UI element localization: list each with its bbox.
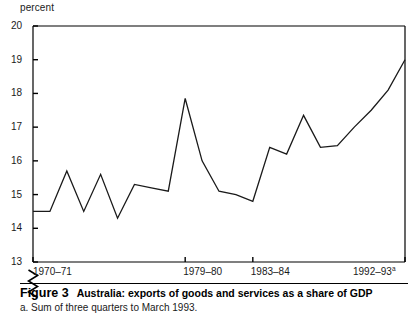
figure-caption: Figure 3Australia: exports of goods and … (20, 286, 416, 300)
figure-footnote: a. Sum of three quarters to March 1993. (20, 302, 197, 314)
y-tick-label: 14 (0, 223, 22, 233)
x-tick-label: 1970–71 (33, 266, 72, 277)
chart-axes (33, 26, 405, 262)
y-tick-label: 13 (0, 257, 22, 267)
figure-container: percent 1314151617181920 1970–711979–801… (0, 0, 420, 316)
y-tick-label: 16 (0, 156, 22, 166)
x-tick-label: 1979–80 (183, 266, 222, 277)
x-tick-label: 1992–93a (353, 266, 396, 277)
chart-tick-marks (33, 26, 405, 262)
figure-number: Figure 3 (20, 286, 69, 300)
figure-title: Australia: exports of goods and services… (77, 287, 373, 299)
y-tick-label: 20 (0, 21, 22, 31)
x-tick-label: 1983–84 (251, 266, 290, 277)
chart-plot-area: 1314151617181920 1970–711979–801983–8419… (0, 0, 420, 280)
data-series-line (33, 60, 405, 218)
line-chart-svg (0, 0, 420, 280)
y-tick-label: 17 (0, 122, 22, 132)
caption-divider (20, 283, 408, 284)
y-tick-label: 15 (0, 190, 22, 200)
y-tick-label: 18 (0, 88, 22, 98)
y-tick-label: 19 (0, 55, 22, 65)
